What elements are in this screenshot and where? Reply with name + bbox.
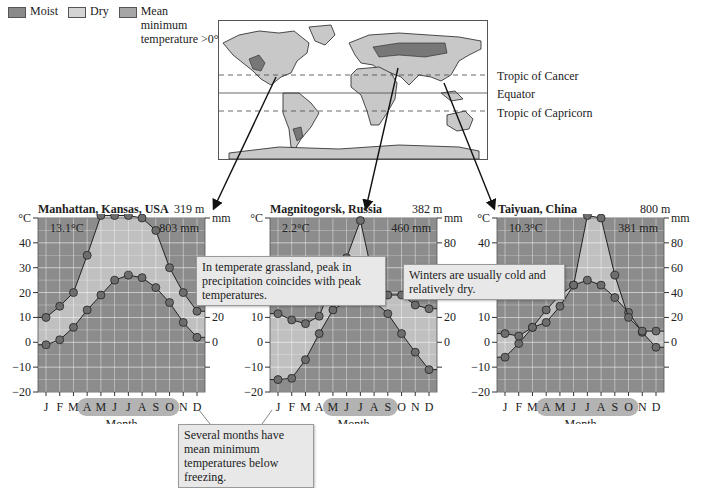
callout-freezing: Several months have mean minimum tempera… (178, 424, 314, 488)
